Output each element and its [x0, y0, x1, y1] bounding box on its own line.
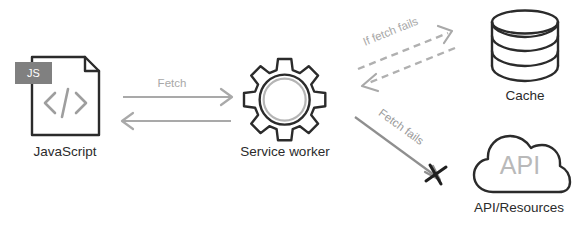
gear-icon	[244, 59, 325, 140]
node-label-javascript: JavaScript	[33, 144, 96, 159]
node-label-cache: Cache	[505, 88, 544, 103]
edge-service-worker-to-api: Fetch fails	[355, 107, 446, 184]
diagram-canvas: JS JavaScript Fetch Service worker	[0, 0, 577, 225]
cloud-inner-label: API	[500, 151, 540, 179]
node-label-api-resources: API/Resources	[474, 200, 564, 215]
edge-label-if-fetch-fails: If fetch fails	[361, 15, 420, 48]
js-badge-label: JS	[27, 67, 40, 79]
node-label-service-worker: Service worker	[240, 144, 330, 159]
node-service-worker[interactable]: Service worker	[240, 59, 330, 159]
code-glyph-icon	[45, 89, 86, 117]
service-worker-flow-diagram: JS JavaScript Fetch Service worker	[0, 0, 577, 225]
edge-service-worker-to-cache: If fetch fails	[358, 15, 455, 91]
node-api-resources[interactable]: API API/Resources	[474, 136, 570, 215]
if-fetch-fails-arrow-forward-head-icon	[438, 26, 452, 43]
edge-label-fetch: Fetch	[158, 77, 187, 89]
database-cylinder-icon	[492, 11, 558, 82]
node-javascript[interactable]: JS JavaScript	[15, 57, 99, 159]
node-cache[interactable]: Cache	[492, 11, 558, 104]
edge-label-fetch-fails: Fetch fails	[377, 107, 427, 148]
if-fetch-fails-arrow-reverse-line	[366, 48, 455, 84]
edge-js-to-service-worker: Fetch	[122, 77, 232, 129]
if-fetch-fails-arrow-reverse-head-icon	[362, 74, 378, 91]
